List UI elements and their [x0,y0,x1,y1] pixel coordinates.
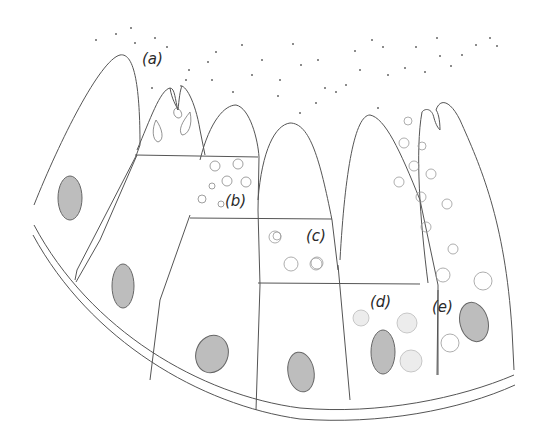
nucleus-5 [371,330,395,374]
nucleus-6 [455,299,492,345]
label-c: (c) [306,227,326,245]
cell-4-outline [258,123,338,270]
cell-1-outline [34,55,140,270]
secretion-dots [95,27,498,114]
nucleus-3 [190,331,233,378]
label-a: (a) [142,50,163,68]
nucleus-4 [285,350,318,394]
cell-diagram [0,0,544,439]
nucleus-1 [58,176,82,220]
basement-membrane-outer [33,235,515,420]
label-b: (b) [225,192,246,210]
nucleus-2 [112,264,134,308]
label-d: (d) [370,293,391,311]
basement-membrane-inner [34,225,514,410]
label-e: (e) [432,298,453,316]
cell-2-outline [137,86,205,155]
